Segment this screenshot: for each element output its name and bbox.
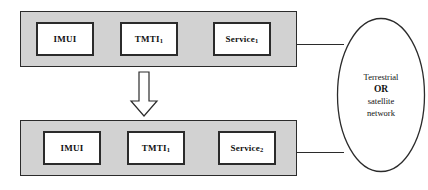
top-box-imui-label: IMUI — [54, 34, 77, 44]
top-box-tmti-label: TMTI — [135, 34, 160, 44]
service-migration-diagram: IMUI TMTI1 Service1 IMUI TMTI1 Service2 … — [0, 0, 428, 190]
bottom-box-service-label: Service — [231, 143, 260, 153]
network-ellipse-shape — [336, 17, 426, 173]
bottom-box-tmti-label: TMTI — [142, 143, 167, 153]
bottom-box-service: Service2 — [218, 131, 276, 165]
down-arrow-icon — [129, 71, 159, 117]
top-box-tmti: TMTI1 — [120, 22, 178, 56]
top-box-service-label: Service — [226, 34, 255, 44]
top-box-imui: IMUI — [36, 22, 94, 56]
top-box-service: Service1 — [213, 22, 271, 56]
bottom-box-imui: IMUI — [43, 131, 101, 165]
bottom-box-imui-label: IMUI — [61, 143, 84, 153]
bottom-box-tmti: TMTI1 — [127, 131, 185, 165]
